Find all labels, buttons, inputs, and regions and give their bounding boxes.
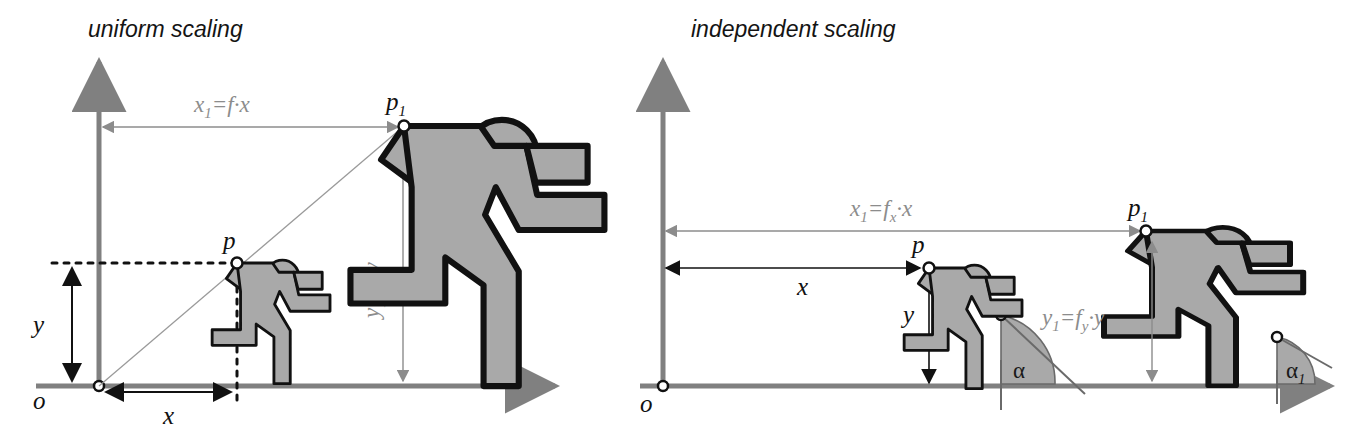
x-label-independent: x	[796, 273, 808, 300]
diagram-canvas: uniform scaling o y x x1=f·x y1=f·y	[0, 0, 1367, 434]
runner-front-arm	[1242, 243, 1290, 265]
origin-label-independent: o	[640, 390, 653, 417]
point-p-uniform	[232, 258, 243, 269]
point-p1-independent	[1141, 226, 1152, 237]
x1-expression-independent: x1=fx·x	[849, 196, 913, 225]
angle-alpha-label: α	[1013, 358, 1025, 383]
panel-title-independent: independent scaling	[691, 16, 896, 42]
point-p1-uniform	[399, 121, 410, 132]
y1-expression-independent: y1=fy·y	[1040, 305, 1105, 334]
runner-front-arm	[986, 277, 1014, 294]
point-p-label-uniform: p	[221, 227, 236, 254]
origin-point-independent	[658, 381, 668, 391]
y-label-independent: y	[900, 301, 915, 328]
point-p-label-independent: p	[910, 231, 925, 258]
runner-front-arm	[526, 146, 587, 183]
angle-alpha1-vertex	[1272, 332, 1282, 342]
panel-title-uniform: uniform scaling	[88, 16, 243, 42]
runner-front-arm	[294, 272, 322, 289]
canvas-background	[0, 0, 1367, 434]
x1-expression-uniform: x1=f·x	[193, 92, 250, 121]
point-p-independent	[924, 263, 935, 274]
scaling-diagram: uniform scaling o y x x1=f·x y1=f·y	[0, 0, 1367, 434]
y-label-uniform: y	[30, 311, 45, 338]
origin-label-uniform: o	[33, 387, 46, 414]
x-label-uniform: x	[162, 402, 174, 429]
